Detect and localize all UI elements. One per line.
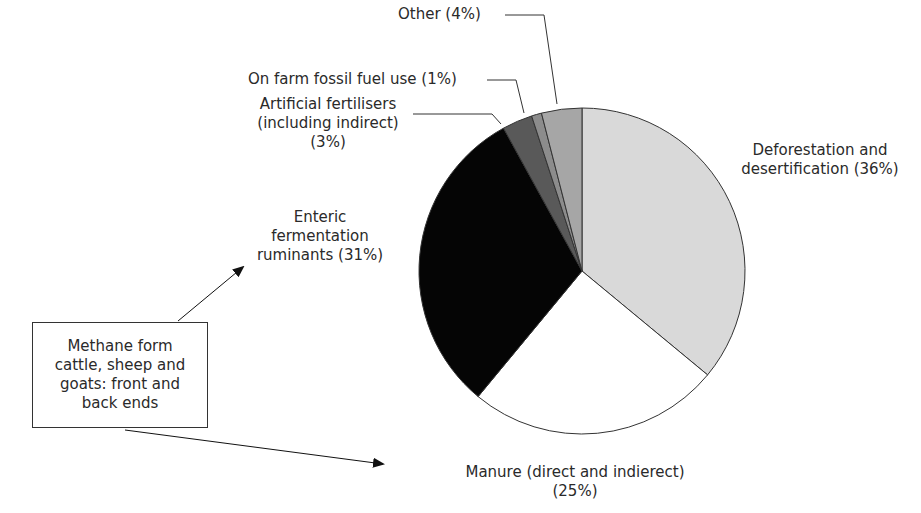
- label-deforestation-line2: desertification (36%): [720, 160, 920, 179]
- annotation-line3: goats: front and: [55, 375, 185, 394]
- label-deforestation-line1: Deforestation and: [720, 141, 920, 160]
- label-manure-line1: Manure (direct and indierect): [450, 463, 700, 482]
- arrow-to-manure: [125, 430, 383, 464]
- label-enteric-line3: ruminants (31%): [250, 246, 390, 265]
- leader-line-fossil: [487, 80, 524, 113]
- annotation-line4: back ends: [55, 394, 185, 413]
- label-enteric-line2: fermentation: [250, 227, 390, 246]
- arrow-to-enteric: [178, 267, 243, 321]
- annotation-line1: Methane form: [55, 337, 185, 356]
- label-fertilisers-line1: Artificial fertilisers: [248, 95, 408, 114]
- leader-line-other: [505, 15, 557, 104]
- leader-line-fertilisers: [413, 114, 501, 124]
- label-fertilisers-line3: (3%): [248, 133, 408, 152]
- label-manure: Manure (direct and indierect) (25%): [450, 463, 700, 501]
- label-enteric-line1: Enteric: [250, 208, 390, 227]
- pie-slices: [419, 108, 745, 434]
- annotation-box: Methane form cattle, sheep and goats: fr…: [32, 322, 208, 428]
- annotation-line2: cattle, sheep and: [55, 356, 185, 375]
- label-manure-line2: (25%): [450, 482, 700, 501]
- label-deforestation: Deforestation and desertification (36%): [720, 141, 920, 179]
- label-fertilisers: Artificial fertilisers (including indire…: [248, 95, 408, 152]
- label-fossil-fuel: On farm fossil fuel use (1%): [248, 70, 457, 89]
- label-enteric: Enteric fermentation ruminants (31%): [250, 208, 390, 265]
- label-other: Other (4%): [398, 5, 481, 24]
- label-fertilisers-line2: (including indirect): [248, 114, 408, 133]
- pie-chart: [0, 0, 921, 513]
